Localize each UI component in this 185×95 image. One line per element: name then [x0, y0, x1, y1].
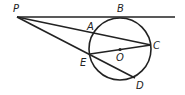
label-D: D: [136, 80, 144, 91]
label-A: A: [86, 21, 94, 32]
label-E: E: [80, 57, 87, 68]
center-point-O: [118, 48, 121, 51]
label-C: C: [153, 40, 160, 51]
label-B: B: [117, 3, 124, 14]
geometry-diagram: P B A C E O D: [0, 0, 185, 95]
label-P: P: [13, 3, 20, 14]
secant-PED: [17, 17, 135, 78]
secant-PAC: [17, 17, 151, 45]
label-O: O: [116, 52, 124, 63]
